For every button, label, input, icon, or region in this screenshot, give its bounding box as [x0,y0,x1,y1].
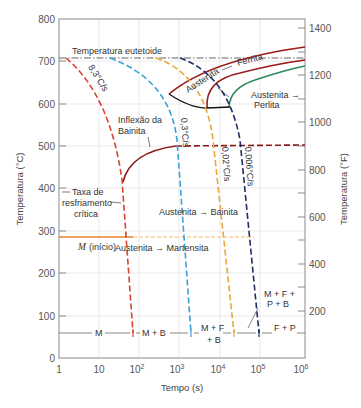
left-axis-labels: 0 100 200 300 400 500 600 700 800 [38,14,55,364]
cct-diagram: 0 100 200 300 400 500 600 700 800 200 40… [0,0,361,408]
m-start-label: M(início) [77,242,116,252]
phase-m-f-b-2: + B [207,335,221,345]
phase-m-f-b-1: M + F [201,323,225,333]
pointer-bainite-knee [148,137,150,147]
eutectoid-label: Temperatura eutetoide [72,46,162,56]
x-tick-100: 102 [129,363,144,375]
y2-tick-1400: 1400 [309,23,332,34]
phase-m-f-p-b-2: P + B [267,299,289,309]
y-tick-500: 500 [38,141,55,152]
x-tick-100000: 105 [250,363,265,375]
y2-tick-800: 800 [309,165,326,176]
critical-rate-label-1: Taxa de [72,187,104,197]
critical-rate-label-2: resfriamento [62,198,112,208]
bainite-knee-label-2: Bainita [118,126,146,136]
x-axis-title: Tempo (s) [161,382,203,393]
x-tick-10000: 104 [210,363,225,375]
phase-m-b: M + B [142,328,166,338]
y-tick-0: 0 [49,353,55,364]
y-tick-700: 700 [38,56,55,67]
y2-tick-400: 400 [309,259,326,270]
y-tick-100: 100 [38,311,55,322]
y-tick-200: 200 [38,268,55,279]
x-tick-1: 1 [56,364,62,375]
y-axis-title: Temperatura (°C) [14,153,25,226]
right-axis-ticks [298,28,305,311]
cooling-curve-0-006 [180,58,259,333]
rate-label-0-3: 0,3°C/s [179,117,191,148]
y-tick-300: 300 [38,226,55,237]
pearlite-label-line2: Perlita [254,100,280,110]
x-tick-1000: 103 [169,363,184,375]
y-tick-600: 600 [38,99,55,110]
austenite-martensite-label: Austenita → Martensita [115,243,209,253]
phase-m-f-p-b-1: M + F + [264,289,295,299]
rate-label-8-3: 8,3°C/s [86,63,110,94]
bainite-knee-label-1: Inflexão da [118,115,162,125]
right-axis-labels: 200 400 600 800 1000 1200 1400 [309,23,332,317]
y2-tick-200: 200 [309,306,326,317]
y-tick-800: 800 [38,14,55,25]
austenite-bainite-label: Austenita → Bainita [159,207,238,217]
y2-tick-600: 600 [309,212,326,223]
y2-axis-title: Temperatura (°F) [338,153,349,225]
y-tick-400: 400 [38,183,55,194]
left-axis-ticks [59,61,66,316]
cooling-curve-0-02 [156,58,234,333]
y2-tick-1000: 1000 [309,117,332,128]
rate-label-0-006: 0,006°C/s [243,146,256,187]
arrow-ferrite [222,66,232,70]
x-tick-1000000: 106 [293,363,308,375]
y2-tick-1200: 1200 [309,70,332,81]
phase-m: M [95,328,103,338]
rate-label-0-02: 0,02°C/s [220,146,232,182]
x-axis-labels: 1 10 102 103 104 105 106 [56,363,308,375]
phase-f-p: F + P [274,323,296,333]
critical-rate-label-3: crítica [74,209,98,219]
ferrite-label: Ferrita [236,52,264,68]
bainite-start-curve [123,146,176,182]
x-tick-10: 10 [93,364,105,375]
pearlite-label-line1: Austenita → [251,90,300,100]
